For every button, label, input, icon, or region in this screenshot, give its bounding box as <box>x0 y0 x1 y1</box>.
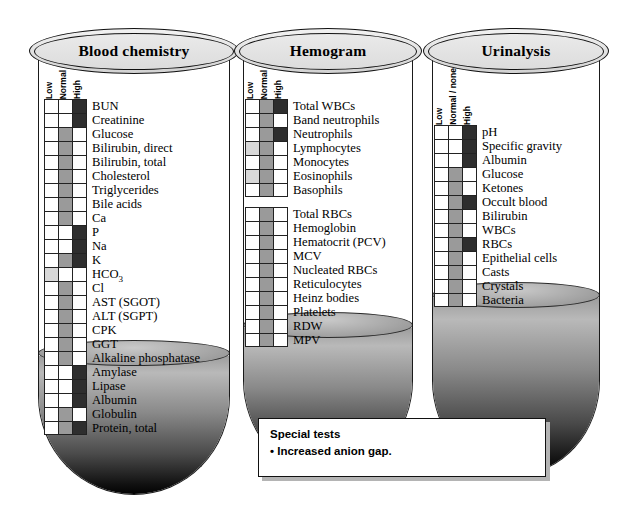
cell-normal[interactable] <box>449 153 463 167</box>
cell-normal[interactable] <box>59 183 73 197</box>
cell-low[interactable] <box>45 127 59 141</box>
cell-normal[interactable] <box>449 181 463 195</box>
result-row[interactable]: RBCs <box>434 237 562 251</box>
cell-high[interactable] <box>274 291 288 305</box>
cell-high[interactable] <box>73 211 87 225</box>
cell-normal[interactable] <box>449 125 463 139</box>
cell-low[interactable] <box>45 337 59 351</box>
result-row[interactable]: pH <box>434 125 562 139</box>
cell-low[interactable] <box>45 113 59 127</box>
cell-low[interactable] <box>246 305 260 319</box>
cell-low[interactable] <box>45 141 59 155</box>
cell-normal[interactable] <box>260 113 274 127</box>
result-row[interactable]: Bilirubin <box>434 209 562 223</box>
result-row[interactable]: Band neutrophils <box>245 113 386 127</box>
cell-normal[interactable] <box>449 293 463 307</box>
result-row[interactable]: K <box>44 253 200 267</box>
cell-low[interactable] <box>246 249 260 263</box>
cell-normal[interactable] <box>260 155 274 169</box>
result-row[interactable]: WBCs <box>434 223 562 237</box>
cell-high[interactable] <box>73 295 87 309</box>
cell-high[interactable] <box>73 239 87 253</box>
cell-normal[interactable] <box>59 155 73 169</box>
result-row[interactable]: Protein, total <box>44 421 200 435</box>
cell-high[interactable] <box>274 263 288 277</box>
cell-low[interactable] <box>246 291 260 305</box>
result-row[interactable]: Crystals <box>434 279 562 293</box>
result-row[interactable]: Heinz bodies <box>245 291 386 305</box>
cell-normal[interactable] <box>260 333 274 347</box>
cell-high[interactable] <box>274 277 288 291</box>
cell-normal[interactable] <box>59 393 73 407</box>
cell-high[interactable] <box>463 237 477 251</box>
cell-high[interactable] <box>463 139 477 153</box>
result-row[interactable]: Alkaline phosphatase <box>44 351 200 365</box>
cell-normal[interactable] <box>59 379 73 393</box>
cell-normal[interactable] <box>449 265 463 279</box>
cell-normal[interactable] <box>59 295 73 309</box>
result-row[interactable]: Nucleated RBCs <box>245 263 386 277</box>
cell-high[interactable] <box>73 169 87 183</box>
cell-high[interactable] <box>463 125 477 139</box>
result-row[interactable]: Bacteria <box>434 293 562 307</box>
cell-normal[interactable] <box>59 141 73 155</box>
cell-low[interactable] <box>435 293 449 307</box>
cell-normal[interactable] <box>59 169 73 183</box>
result-row[interactable]: Hemoglobin <box>245 221 386 235</box>
cell-low[interactable] <box>435 279 449 293</box>
cell-normal[interactable] <box>59 421 73 435</box>
cell-low[interactable] <box>246 333 260 347</box>
cell-normal[interactable] <box>59 197 73 211</box>
cell-high[interactable] <box>274 99 288 113</box>
cell-low[interactable] <box>45 351 59 365</box>
cell-high[interactable] <box>73 323 87 337</box>
cell-low[interactable] <box>45 421 59 435</box>
cell-low[interactable] <box>45 155 59 169</box>
cell-high[interactable] <box>463 265 477 279</box>
cell-low[interactable] <box>246 127 260 141</box>
cell-high[interactable] <box>73 309 87 323</box>
cell-low[interactable] <box>45 295 59 309</box>
cell-low[interactable] <box>45 99 59 113</box>
result-row[interactable]: Globulin <box>44 407 200 421</box>
cell-normal[interactable] <box>59 127 73 141</box>
cell-normal[interactable] <box>59 253 73 267</box>
cell-normal[interactable] <box>449 279 463 293</box>
cell-low[interactable] <box>435 237 449 251</box>
cell-normal[interactable] <box>260 127 274 141</box>
cell-normal[interactable] <box>59 267 73 281</box>
cell-normal[interactable] <box>449 195 463 209</box>
cell-high[interactable] <box>73 351 87 365</box>
cell-normal[interactable] <box>260 99 274 113</box>
cell-low[interactable] <box>45 267 59 281</box>
result-row[interactable]: Bilirubin, direct <box>44 141 200 155</box>
cell-high[interactable] <box>73 141 87 155</box>
cell-high[interactable] <box>463 153 477 167</box>
cell-low[interactable] <box>45 225 59 239</box>
cell-high[interactable] <box>463 251 477 265</box>
cell-high[interactable] <box>73 407 87 421</box>
cell-low[interactable] <box>45 407 59 421</box>
cell-high[interactable] <box>274 141 288 155</box>
cell-normal[interactable] <box>59 351 73 365</box>
cell-low[interactable] <box>246 141 260 155</box>
cell-high[interactable] <box>463 167 477 181</box>
cell-normal[interactable] <box>449 251 463 265</box>
cell-low[interactable] <box>246 207 260 221</box>
cell-low[interactable] <box>45 379 59 393</box>
cell-normal[interactable] <box>449 237 463 251</box>
cell-low[interactable] <box>45 253 59 267</box>
cell-low[interactable] <box>435 265 449 279</box>
cell-high[interactable] <box>274 169 288 183</box>
cell-high[interactable] <box>274 221 288 235</box>
cell-high[interactable] <box>274 207 288 221</box>
cell-normal[interactable] <box>260 183 274 197</box>
result-row[interactable]: Albumin <box>44 393 200 407</box>
cell-normal[interactable] <box>260 207 274 221</box>
cell-normal[interactable] <box>59 99 73 113</box>
result-row[interactable]: Cholesterol <box>44 169 200 183</box>
cell-normal[interactable] <box>449 209 463 223</box>
cell-low[interactable] <box>435 167 449 181</box>
cell-low[interactable] <box>45 309 59 323</box>
cell-low[interactable] <box>435 209 449 223</box>
